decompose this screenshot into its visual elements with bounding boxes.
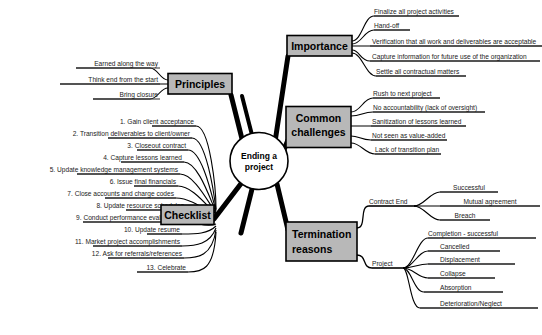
leaf-challenges-3: Sanitization of lessons learned <box>372 118 462 125</box>
label-project: Project <box>372 260 393 268</box>
leaf-contract-2: Mutual agreement <box>463 198 516 206</box>
leaf-project-5: Absorption <box>440 284 472 292</box>
leaf-principles-3: Bring closure <box>120 91 159 99</box>
leaf-checklist-1: 1. Gain client acceptance <box>120 118 194 126</box>
branch-checklist: 1. Gain client acceptance 2. Transition … <box>50 118 216 272</box>
mind-map-canvas: Ending a project Earned along the way Th… <box>0 0 542 335</box>
leaf-checklist-7: 7. Close accounts and charge codes <box>67 190 174 198</box>
leaf-checklist-6: 6. Issue final financials <box>110 178 177 185</box>
leaf-project-1: Completion - successful <box>428 230 499 238</box>
leaf-project-3: Displacement <box>440 256 480 264</box>
label-contract-end: Contract End <box>369 198 408 205</box>
leaf-challenges-2: No accountability (lack of oversight) <box>373 104 477 112</box>
branch-importance: Finalize all project activities Hand-off… <box>287 8 542 76</box>
center-node[interactable]: Ending a project <box>230 133 288 190</box>
leaf-project-4: Collapse <box>440 270 466 278</box>
leaf-importance-4: Capture information for future use of th… <box>372 53 527 61</box>
leaf-checklist-2: 2. Transition deliverables to client/own… <box>73 130 191 137</box>
center-label-line1: Ending a <box>241 151 277 161</box>
leaf-checklist-4: 4. Capture lessons learned <box>103 154 182 162</box>
spoke-checklist <box>214 181 243 219</box>
spoke-upper-left <box>242 96 252 135</box>
leaf-challenges-5: Lack of transition plan <box>375 146 439 154</box>
connector-challenges-2 <box>351 112 485 116</box>
leaf-project-6: Deterioration/Neglect <box>440 300 502 308</box>
leaf-contract-1: Successful <box>453 184 485 191</box>
center-ellipse <box>230 133 288 190</box>
leaf-importance-3: Verification that all work and deliverab… <box>372 38 537 46</box>
leaf-checklist-12: 12. Ask for referrals/references <box>92 250 183 257</box>
leaf-contract-3: Breach <box>455 212 476 219</box>
spoke-principles <box>231 95 243 143</box>
leaf-checklist-5: 5. Update knowledge management systems <box>50 166 179 174</box>
node-common-challenges-label-line2: challenges <box>291 126 345 138</box>
connector-project-3 <box>403 264 515 268</box>
connector-contract-end <box>357 206 416 228</box>
leaf-challenges-1: Rush to next project <box>373 90 432 98</box>
leaf-principles-1: Earned along the way <box>94 60 158 68</box>
connector-contract-3 <box>414 206 490 220</box>
leaf-project-2: Cancelled <box>440 243 470 250</box>
leaf-importance-5: Settle all contractual matters <box>376 68 460 75</box>
leaf-importance-1: Finalize all project activities <box>374 8 455 16</box>
branch-principles: Earned along the way Think end from the … <box>60 60 232 99</box>
node-importance-label: Importance <box>291 40 348 52</box>
leaf-importance-2: Hand-off <box>374 22 399 29</box>
leaf-challenges-4: Not seen as value-added <box>372 132 446 139</box>
leaf-checklist-13: 13. Celebrate <box>146 264 186 271</box>
branch-termination-reasons: Contract End Successful Mutual agreement… <box>286 184 540 308</box>
node-termination-reasons-label-line2: reasons <box>292 243 332 255</box>
leaf-checklist-3: 3. Closeout contract <box>127 142 186 149</box>
node-checklist-label: Checklist <box>164 209 211 221</box>
leaf-principles-2: Think end from the start <box>88 76 158 83</box>
center-label-line2: project <box>245 162 274 172</box>
node-termination-reasons-label-line1: Termination <box>292 228 351 240</box>
leaf-checklist-11: 11. Market project accomplishments <box>75 238 181 246</box>
leaf-checklist-10: 10. Update resume <box>124 226 180 234</box>
spoke-lower-left <box>241 189 252 233</box>
node-principles-label: Principles <box>175 78 225 90</box>
branch-common-challenges: Rush to next project No accountability (… <box>286 90 485 154</box>
node-common-challenges-label-line1: Common <box>296 112 342 124</box>
